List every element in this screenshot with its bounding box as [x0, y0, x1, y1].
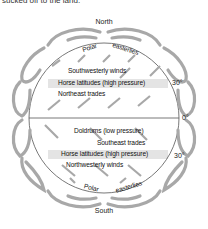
latitude-30-north: 30° [172, 79, 183, 86]
northwesterly-winds-label: Northwesterly winds [66, 161, 123, 168]
southwesterly-winds-label: Southwesterly winds [68, 67, 126, 74]
northeast-trades-label: Northeast trades [58, 90, 105, 97]
latitude-30-south: 30° [174, 152, 185, 159]
horse-latitudes-south-label: Horse latitudes (high pressure) [61, 150, 148, 157]
horse-latitudes-north-label: Horse latitudes (high pressure) [58, 79, 145, 86]
latitude-equator: 0° [182, 114, 189, 121]
southeast-trades-label: Southeast trades [97, 139, 145, 146]
wind-circulation-diagram [0, 0, 208, 229]
doldrums-label: Doldrums (low pressure) [74, 127, 144, 134]
